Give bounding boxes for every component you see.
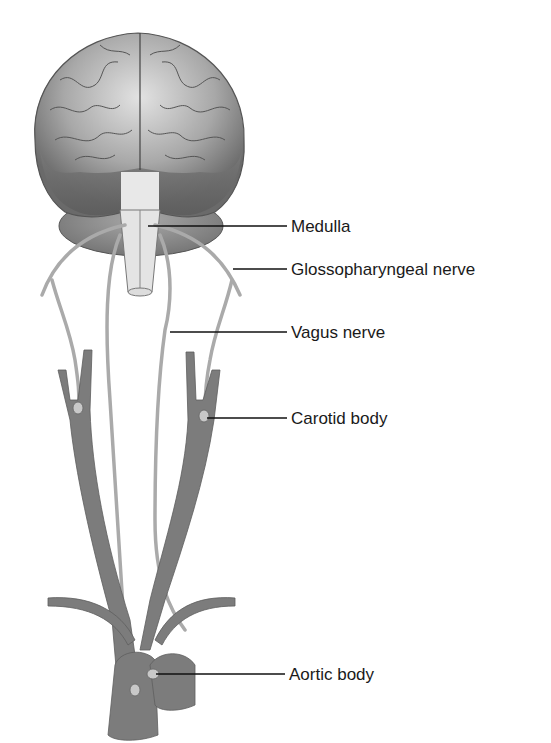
label-vagus-nerve: Vagus nerve <box>291 324 385 341</box>
diagram-illustration <box>0 0 551 743</box>
medulla-structure <box>120 172 160 296</box>
label-glossopharyngeal-nerve: Glossopharyngeal nerve <box>291 261 475 278</box>
label-medulla: Medulla <box>291 218 351 235</box>
label-carotid-body: Carotid body <box>291 410 387 427</box>
label-aortic-body: Aortic body <box>289 666 374 683</box>
